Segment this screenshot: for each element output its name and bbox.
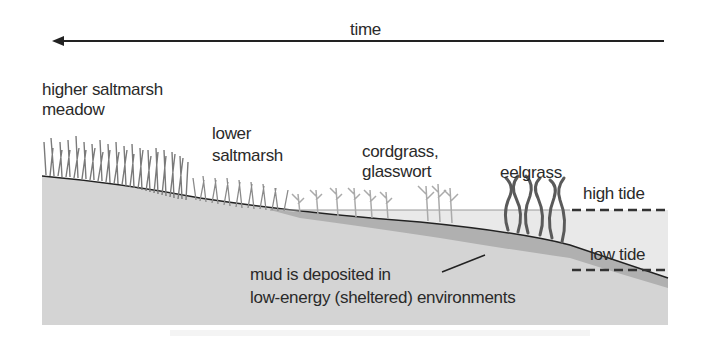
label-lower-saltmarsh-line2: saltmarsh [212,146,283,166]
label-mud-line2: low-energy (sheltered) environments [250,288,515,308]
time-label: time [350,20,381,40]
label-higher-saltmarsh-line2: meadow [42,100,104,120]
label-mud-line1: mud is deposited in [250,265,391,285]
label-higher-saltmarsh-line1: higher saltmarsh [42,80,163,100]
label-low-tide: low tide [590,245,645,265]
label-lower-saltmarsh-line1: lower [212,124,251,144]
bottom-band [170,330,590,336]
label-high-tide: high tide [583,184,645,204]
label-eelgrass: eelgrass [500,163,562,183]
label-cordgrass-line2: glasswort [362,162,431,182]
label-cordgrass-line1: cordgrass, [362,142,438,162]
